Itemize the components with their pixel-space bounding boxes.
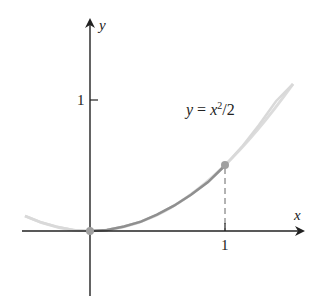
x-axis-label: x	[294, 208, 301, 223]
curve-equation-label: y = x2/2	[186, 102, 235, 118]
parabola-curve-light	[25, 84, 293, 231]
eq-rest: /2	[222, 101, 234, 118]
figure: y 1 x 1 y = x2/2	[0, 0, 327, 307]
x-tick-label: 1	[221, 238, 229, 253]
point-origin	[86, 227, 94, 235]
y-axis-label: y	[99, 18, 106, 33]
eq-equals: =	[193, 101, 210, 118]
parabola-arc-highlight	[90, 166, 225, 232]
y-tick-label: 1	[77, 93, 85, 108]
parabola-curve-full	[25, 84, 293, 231]
graph-canvas	[0, 0, 327, 307]
point-1-half	[221, 161, 229, 169]
